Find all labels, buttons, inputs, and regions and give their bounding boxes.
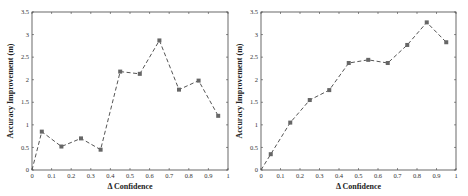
- chart-right: 00.10.20.30.40.50.60.70.80.9100.511.522.…: [234, 0, 468, 196]
- data-point-marker: [269, 152, 273, 156]
- x-tick-label: 0.7: [165, 172, 174, 179]
- x-tick-label: 0.4: [106, 172, 115, 179]
- data-point-marker: [386, 61, 390, 65]
- data-point-marker: [425, 20, 429, 24]
- y-tick-label: 1.5: [21, 98, 29, 105]
- chart-left: 00.10.20.30.40.50.60.70.80.9100.511.522.…: [0, 0, 234, 196]
- y-tick-label: 2.5: [21, 53, 29, 60]
- y-tick-label: 3: [26, 31, 29, 38]
- plot-frame: [261, 12, 456, 170]
- y-tick-label: 3.5: [250, 8, 258, 15]
- data-point-marker: [138, 72, 142, 76]
- data-point-marker: [405, 43, 409, 47]
- x-tick-label: 0: [30, 172, 33, 179]
- data-point-marker: [157, 38, 161, 42]
- x-tick-label: 0.2: [67, 172, 75, 179]
- x-axis-title: Δ Confidence: [336, 182, 382, 191]
- x-tick-label: 0.5: [126, 172, 134, 179]
- y-tick-label: 1: [255, 121, 258, 128]
- y-axis-title: Accuracy Improvement (m): [6, 43, 15, 138]
- x-tick-label: 0.4: [335, 172, 344, 179]
- x-axis-title: Δ Confidence: [107, 182, 153, 191]
- x-tick-label: 0.1: [276, 172, 284, 179]
- y-axis-title: Accuracy Improvement (m): [235, 43, 244, 138]
- y-tick-label: 3: [255, 31, 258, 38]
- data-point-marker: [366, 58, 370, 62]
- y-tick-label: 0.5: [250, 144, 258, 151]
- data-point-marker: [59, 145, 63, 149]
- x-tick-label: 1: [454, 172, 457, 179]
- x-tick-label: 0.2: [296, 172, 304, 179]
- x-tick-label: 0.3: [87, 172, 95, 179]
- data-point-marker: [216, 114, 220, 118]
- y-tick-label: 0: [255, 166, 258, 173]
- y-tick-label: 1.5: [250, 98, 258, 105]
- x-tick-label: 0.9: [432, 172, 440, 179]
- x-tick-label: 0.5: [354, 172, 362, 179]
- data-point-marker: [308, 98, 312, 102]
- data-point-marker: [118, 70, 122, 74]
- y-tick-label: 3.5: [21, 8, 29, 15]
- chart-right-plot: 00.10.20.30.40.50.60.70.80.9100.511.522.…: [234, 0, 468, 196]
- data-point-marker: [327, 88, 331, 92]
- data-line: [32, 40, 218, 170]
- chart-left-plot: 00.10.20.30.40.50.60.70.80.9100.511.522.…: [0, 0, 234, 196]
- data-point-marker: [347, 61, 351, 65]
- data-point-marker: [177, 88, 181, 92]
- x-tick-label: 0.6: [146, 172, 155, 179]
- x-tick-label: 0.8: [185, 172, 193, 179]
- x-tick-label: 1: [226, 172, 229, 179]
- x-tick-label: 0.1: [48, 172, 56, 179]
- y-tick-label: 1: [26, 121, 29, 128]
- x-tick-label: 0.3: [315, 172, 323, 179]
- x-tick-label: 0.7: [393, 172, 402, 179]
- y-tick-label: 2: [255, 76, 258, 83]
- data-point-marker: [444, 40, 448, 44]
- y-tick-label: 0: [26, 166, 29, 173]
- x-tick-label: 0.8: [413, 172, 421, 179]
- x-tick-label: 0.6: [374, 172, 383, 179]
- data-point-marker: [40, 130, 44, 134]
- data-line: [261, 22, 446, 170]
- data-point-marker: [197, 79, 201, 83]
- y-tick-label: 2.5: [250, 53, 258, 60]
- data-point-marker: [79, 136, 83, 140]
- y-tick-label: 0.5: [21, 144, 29, 151]
- data-point-marker: [288, 121, 292, 125]
- x-tick-label: 0.9: [204, 172, 212, 179]
- data-point-marker: [99, 148, 103, 152]
- x-tick-label: 0: [259, 172, 262, 179]
- y-tick-label: 2: [26, 76, 29, 83]
